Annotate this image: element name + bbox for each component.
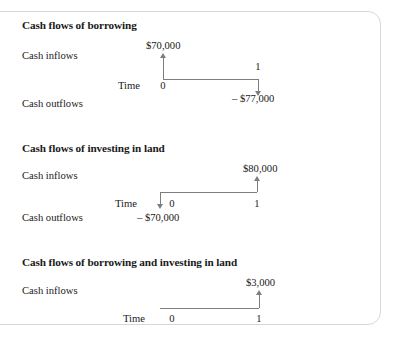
inflow-stem-investing (257, 180, 258, 192)
tick-period-0-borrowing: 0 (157, 80, 169, 91)
time-axis-label-borrowing: Time (118, 80, 140, 91)
outflow-amount-investing: – $70,000 (137, 212, 179, 223)
tick-period-1-investing: 1 (251, 198, 263, 209)
cash-inflows-label-combined: Cash inflows (22, 285, 78, 296)
tick-period-0-investing: 0 (166, 198, 178, 209)
inflow-arrow-up-icon-borrowing (160, 53, 166, 58)
inflow-stem-combined (259, 294, 260, 308)
cash-outflows-label-investing: Cash outflows (22, 212, 83, 223)
cash-inflows-label: Cash inflows (22, 50, 78, 61)
time-axis-label-investing: Time (115, 198, 137, 209)
outflow-arrow-down-icon-borrowing (255, 91, 261, 96)
inflow-amount-borrowing: $70,000 (146, 40, 180, 51)
cash-inflows-label-investing: Cash inflows (22, 170, 78, 181)
time-axis-label-combined: Time (123, 313, 145, 324)
section-heading-borrowing-investing: Cash flows of borrowing and investing in… (22, 256, 237, 268)
inflow-amount-combined: $3,000 (246, 277, 275, 288)
inflow-amount-investing: $80,000 (243, 163, 277, 174)
tick-period-0-combined: 0 (166, 313, 178, 324)
inflow-stem-borrowing (163, 57, 164, 79)
timeline-axis-investing (160, 192, 257, 193)
cash-outflows-label: Cash outflows (22, 98, 83, 109)
section-heading-borrowing: Cash flows of borrowing (22, 19, 137, 31)
outflow-amount-borrowing: – $77,000 (232, 93, 274, 104)
inflow-arrow-up-icon-investing (254, 176, 260, 181)
tick-period-1-combined: 1 (253, 313, 265, 324)
timeline-axis-combined (160, 308, 259, 309)
tick-period-1-borrowing: 1 (252, 61, 264, 72)
section-heading-investing: Cash flows of investing in land (22, 142, 165, 154)
timeline-axis-borrowing (163, 79, 259, 80)
outflow-arrow-down-icon-investing (157, 204, 163, 209)
inflow-arrow-up-icon-combined (256, 290, 262, 295)
